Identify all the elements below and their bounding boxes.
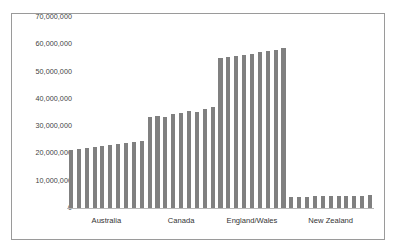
y-axis-tick-label: 30,000,000	[16, 122, 72, 130]
bar	[211, 107, 215, 208]
bars-layer	[67, 17, 374, 208]
y-axis-tick-label: 50,000,000	[16, 68, 72, 76]
bar	[85, 148, 89, 208]
y-axis-tick-label: 70,000,000	[16, 13, 72, 21]
bar	[77, 149, 81, 208]
y-axis-tick-label: 10,000,000	[16, 177, 72, 185]
bar	[155, 116, 159, 208]
y-axis-tick-label: 0	[16, 204, 72, 212]
bar	[100, 146, 104, 208]
bar	[344, 196, 348, 208]
chart-figure: 70,000,00060,000,00050,000,00040,000,000…	[11, 13, 385, 240]
x-axis-category-label: Australia	[92, 215, 122, 227]
bar	[148, 117, 152, 208]
bar	[140, 141, 144, 208]
bar	[337, 196, 341, 208]
bar	[187, 111, 191, 208]
bar	[313, 196, 317, 208]
bar	[352, 196, 356, 208]
bar	[258, 52, 262, 208]
bar	[305, 197, 309, 208]
bar	[266, 51, 270, 208]
bar	[274, 50, 278, 208]
bar	[360, 196, 364, 208]
bar	[289, 197, 293, 208]
bar	[179, 113, 183, 209]
bar	[108, 145, 112, 208]
bar	[69, 150, 73, 208]
bar	[124, 143, 128, 208]
bar	[281, 48, 285, 208]
bar	[226, 57, 230, 208]
y-axis-tick-label: 40,000,000	[16, 95, 72, 103]
y-axis-tick-label: 60,000,000	[16, 40, 72, 48]
x-axis-category-label: New Zealand	[308, 215, 353, 227]
bar	[321, 196, 325, 208]
bar	[163, 117, 167, 208]
bar	[297, 197, 301, 208]
bar	[242, 55, 246, 208]
y-axis-tick-label: 20,000,000	[16, 149, 72, 157]
bar	[195, 112, 199, 208]
bar	[171, 114, 175, 208]
bar	[368, 195, 372, 208]
x-axis-line	[67, 208, 374, 209]
bar	[203, 109, 207, 208]
x-axis-category-label: England/Wales	[227, 215, 278, 227]
bar	[234, 56, 238, 208]
bar	[116, 144, 120, 208]
bar	[93, 147, 97, 208]
chart-plot-wrapper: 70,000,00060,000,00050,000,00040,000,000…	[12, 14, 384, 239]
y-axis: 70,000,00060,000,00050,000,00040,000,000…	[16, 14, 72, 239]
bar	[250, 54, 254, 208]
x-axis-category-label: Canada	[168, 215, 195, 227]
bar	[218, 58, 222, 208]
x-axis-category-labels: AustraliaCanadaEngland/WalesNew Zealand	[67, 215, 374, 231]
bar	[132, 142, 136, 208]
bar	[329, 196, 333, 208]
plot-area	[67, 17, 374, 209]
